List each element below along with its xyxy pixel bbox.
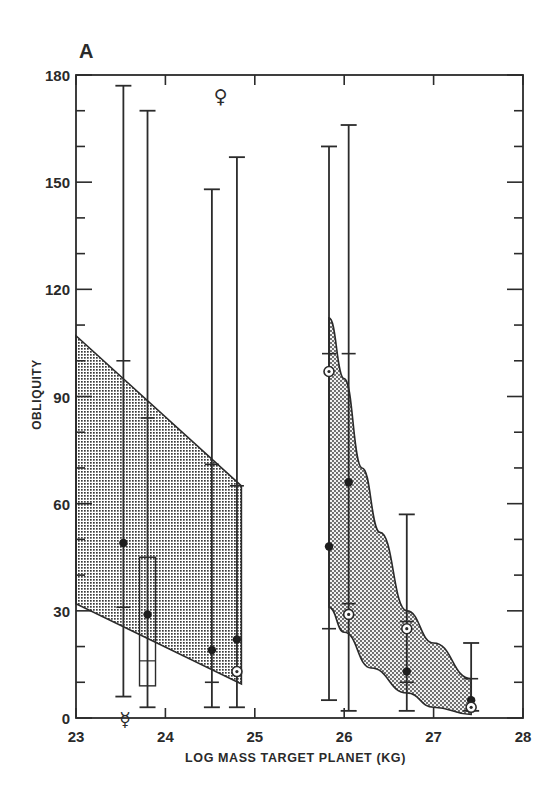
data-point bbox=[325, 542, 333, 550]
y-tick-label: 120 bbox=[45, 281, 70, 298]
y-tick-label: 0 bbox=[62, 710, 70, 727]
y-axis-title: OBLIQUITY bbox=[30, 359, 44, 430]
venus-symbol: ♀ bbox=[214, 85, 228, 107]
x-tick-label: 27 bbox=[425, 728, 442, 745]
y-tick-label: 30 bbox=[53, 603, 70, 620]
jupiter-symbol bbox=[466, 702, 476, 712]
neptune-symbol bbox=[344, 609, 354, 619]
panel-label: A bbox=[79, 40, 93, 62]
saturn-symbol bbox=[402, 624, 412, 634]
x-tick-label: 26 bbox=[336, 728, 353, 745]
x-tick-label: 23 bbox=[68, 728, 85, 745]
obliquity-chart: A ♀☿ 0306090120150180232425262728LOG MAS… bbox=[0, 0, 554, 801]
x-tick-label: 28 bbox=[515, 728, 532, 745]
data-point bbox=[208, 646, 216, 654]
data-point bbox=[143, 610, 151, 618]
terrestrial-band bbox=[76, 336, 241, 684]
panel-label-text: A bbox=[79, 40, 93, 62]
mercury-symbol: ☿ bbox=[119, 708, 131, 730]
data-point bbox=[119, 539, 127, 547]
y-tick-label: 180 bbox=[45, 67, 70, 84]
data-point bbox=[233, 635, 241, 643]
x-tick-label: 25 bbox=[246, 728, 263, 745]
y-tick-label: 60 bbox=[53, 496, 70, 513]
earth-symbol bbox=[232, 667, 242, 677]
x-axis-title: LOG MASS TARGET PLANET (KG) bbox=[185, 751, 406, 765]
y-tick-label: 150 bbox=[45, 174, 70, 191]
giant-planet-band bbox=[329, 318, 471, 715]
data-point bbox=[344, 478, 352, 486]
uranus-symbol bbox=[324, 366, 334, 376]
x-tick-label: 24 bbox=[157, 728, 174, 745]
y-tick-label: 90 bbox=[53, 389, 70, 406]
shaded-regions bbox=[76, 318, 471, 715]
data-point bbox=[403, 667, 411, 675]
